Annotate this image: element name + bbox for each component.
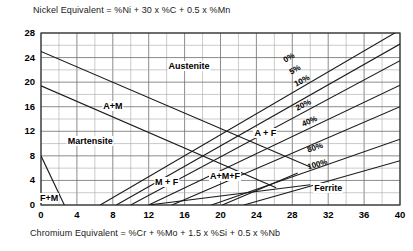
- region-label-ferrite: Ferrite: [313, 183, 343, 193]
- y-tick-label: 24: [19, 52, 35, 63]
- ferrite-line-0pct: [100, 30, 400, 205]
- region-label-a-f: A + F: [253, 128, 277, 138]
- y-tick-label: 20: [19, 76, 35, 87]
- x-tick-label: 28: [284, 209, 300, 220]
- x-tick-label: 8: [105, 209, 121, 220]
- y-tick-label: 12: [19, 125, 35, 136]
- x-tick-label: 4: [69, 209, 85, 220]
- region-label-a-m: A+M: [102, 101, 123, 111]
- y-tick-label: 8: [19, 150, 35, 161]
- x-tick-label: 24: [248, 209, 264, 220]
- x-tick-label: 40: [392, 209, 408, 220]
- region-label-m-f: M + F: [154, 177, 179, 187]
- y-tick-label: 16: [19, 101, 35, 112]
- x-tick-label: 32: [320, 209, 336, 220]
- diagram-svg: [0, 0, 413, 251]
- region-label-f-m: F+M: [39, 193, 59, 203]
- region-label-a-m-f: A+M+F: [209, 171, 241, 181]
- region-label-austenite: Austenite: [168, 61, 211, 71]
- x-tick-label: 16: [177, 209, 193, 220]
- schaeffler-diagram: Nickel Equivalent = %Ni + 30 x %C + 0.5 …: [0, 0, 413, 251]
- chromium-equivalent-label: Chromium Equivalent = %Cr + %Mo + 1.5 x …: [30, 228, 280, 238]
- plot-area: [0, 0, 413, 251]
- x-tick-label: 20: [213, 209, 229, 220]
- y-tick-label: 28: [19, 27, 35, 38]
- x-tick-label: 36: [356, 209, 372, 220]
- x-tick-label: 0: [33, 209, 49, 220]
- y-tick-label: 4: [19, 174, 35, 185]
- region-label-martensite: Martensite: [67, 136, 114, 146]
- x-tick-label: 12: [141, 209, 157, 220]
